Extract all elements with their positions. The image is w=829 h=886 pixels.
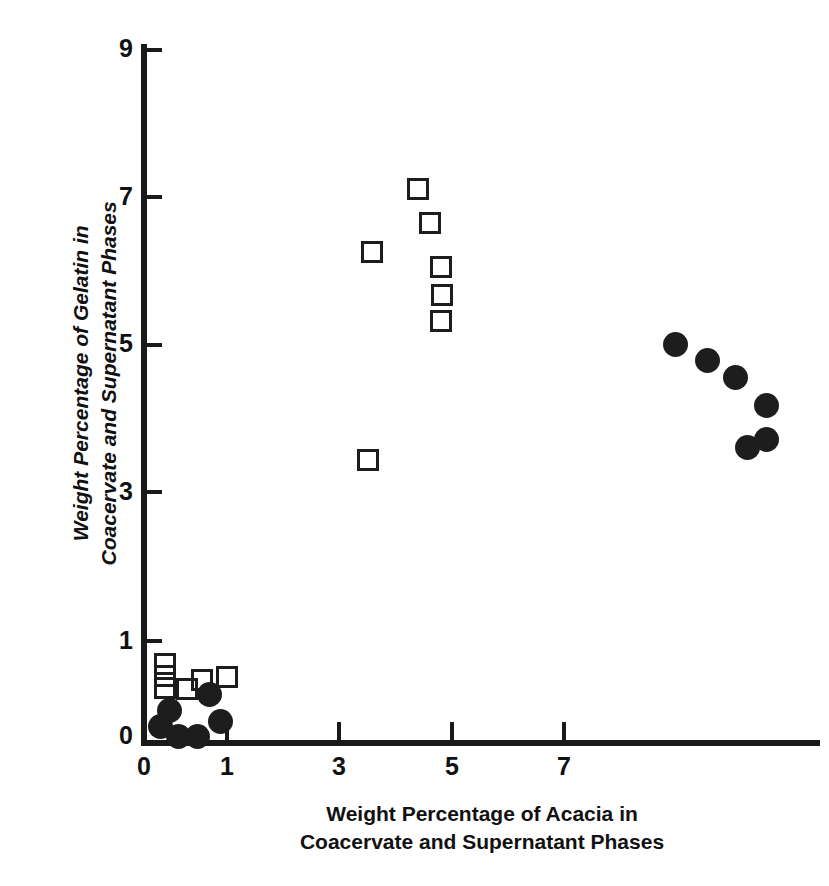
data-point-open-square — [176, 678, 198, 700]
y-tick-7 — [147, 195, 162, 199]
x-axis-title-line-1: Weight Percentage of Acacia in — [144, 800, 820, 828]
x-ticklabel-7: 7 — [544, 754, 584, 779]
x-axis-title: Weight Percentage of Acacia in Coacervat… — [144, 800, 820, 855]
x-ticklabel-0: 0 — [124, 754, 164, 779]
y-tick-1 — [147, 639, 162, 643]
data-point-filled-circle — [197, 682, 222, 707]
y-axis-title: Weight Percentage of Gelatin in Coacerva… — [67, 33, 124, 733]
x-tick-5 — [450, 722, 454, 740]
data-point-open-square — [216, 666, 238, 688]
y-axis-title-line-1: Weight Percentage of Gelatin in — [67, 33, 95, 733]
data-point-open-square — [357, 449, 379, 471]
x-axis-line — [141, 740, 820, 746]
chart-figure: 9 7 5 3 1 0 0 1 3 5 7 Weight Percentage … — [0, 0, 829, 886]
x-ticklabel-1: 1 — [207, 754, 247, 779]
x-ticklabel-3: 3 — [319, 754, 359, 779]
y-tick-5 — [147, 343, 162, 347]
y-tick-9 — [147, 48, 162, 52]
x-ticklabel-5: 5 — [432, 754, 472, 779]
data-point-open-square — [154, 677, 176, 699]
data-point-open-square — [430, 256, 452, 278]
data-point-filled-circle — [735, 435, 760, 460]
data-point-filled-circle — [695, 348, 720, 373]
y-tick-3 — [147, 490, 162, 494]
x-axis-title-line-2: Coacervate and Supernatant Phases — [144, 828, 820, 856]
y-axis-title-line-2: Coacervate and Supernatant Phases — [95, 33, 123, 733]
data-point-open-square — [430, 310, 452, 332]
data-point-open-square — [419, 212, 441, 234]
data-point-filled-circle — [208, 709, 233, 734]
data-point-filled-circle — [723, 365, 748, 390]
data-point-filled-circle — [754, 393, 779, 418]
data-point-open-square — [361, 241, 383, 263]
data-point-open-square — [407, 178, 429, 200]
plot-area: 9 7 5 3 1 0 0 1 3 5 7 — [0, 0, 829, 886]
x-tick-3 — [337, 722, 341, 740]
data-point-open-square — [431, 284, 453, 306]
data-point-filled-circle — [663, 332, 688, 357]
x-tick-7 — [562, 722, 566, 740]
